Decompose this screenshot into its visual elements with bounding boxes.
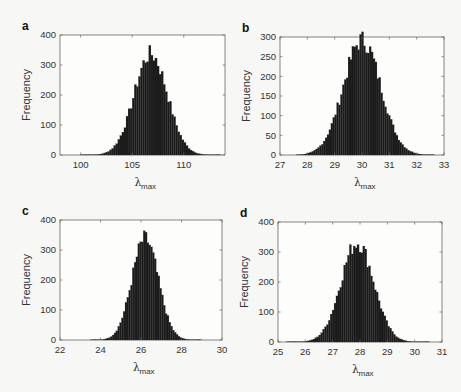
panel-b: 05010015020025030027282930313233Frequenc… (240, 21, 449, 191)
x-axis-label-subscript: max (359, 369, 374, 378)
x-tick-label: 28 (355, 346, 366, 357)
y-tick-label: 150 (260, 90, 276, 101)
y-tick-label: 300 (258, 246, 274, 257)
panel-c: 01002003004002224262830Frequencyλmaxc (20, 204, 227, 376)
x-axis-label-subscript: max (361, 182, 376, 191)
panel-label: b (242, 21, 249, 35)
panel-label: c (22, 204, 29, 218)
x-tick-label: 25 (273, 346, 284, 357)
panel-a: 0100200300400100105110Frequencyλmaxa (20, 19, 225, 191)
panel-d: 010020030040025262728293031Frequencyλmax… (238, 206, 447, 378)
x-tick-label: 110 (176, 159, 191, 170)
x-tick-label: 28 (302, 159, 313, 170)
y-tick-label: 250 (260, 51, 276, 62)
panel-label: a (22, 19, 29, 33)
x-tick-label: 29 (329, 159, 340, 170)
x-tick-label: 30 (409, 346, 420, 357)
y-tick-label: 200 (260, 71, 276, 82)
y-tick-label: 0 (51, 149, 56, 160)
y-tick-label: 400 (40, 29, 56, 40)
panel-label: d (240, 206, 247, 220)
y-tick-label: 100 (260, 110, 276, 121)
y-tick-label: 100 (40, 119, 56, 130)
x-tick-label: 24 (95, 344, 106, 355)
y-axis-label: Frequency (20, 254, 32, 306)
y-tick-label: 200 (40, 274, 56, 285)
y-tick-label: 100 (40, 304, 56, 315)
y-tick-label: 300 (260, 31, 276, 42)
y-axis-label: Frequency (20, 69, 32, 121)
x-tick-label: 31 (384, 159, 395, 170)
x-tick-label: 30 (357, 159, 368, 170)
y-axis-label: Frequency (238, 256, 250, 308)
x-tick-label: 32 (411, 159, 422, 170)
x-tick-label: 31 (437, 346, 448, 357)
x-tick-label: 29 (382, 346, 393, 357)
y-tick-label: 400 (40, 214, 56, 225)
figure: 0100200300400100105110Frequencyλmaxa0501… (0, 0, 461, 392)
x-tick-label: 22 (55, 344, 66, 355)
x-axis-label-subscript: max (141, 182, 156, 191)
x-tick-label: 26 (300, 346, 311, 357)
x-tick-label: 30 (217, 344, 228, 355)
x-tick-label: 33 (439, 159, 450, 170)
y-tick-label: 300 (40, 59, 56, 70)
x-tick-label: 26 (136, 344, 147, 355)
y-tick-label: 50 (265, 130, 276, 141)
x-tick-label: 100 (73, 159, 89, 170)
y-tick-label: 400 (258, 216, 274, 227)
x-axis-label-subscript: max (140, 367, 155, 376)
y-tick-label: 200 (258, 276, 274, 287)
y-tick-label: 300 (40, 244, 56, 255)
x-tick-label: 28 (176, 344, 187, 355)
y-axis-label: Frequency (240, 70, 252, 122)
x-tick-label: 27 (327, 346, 338, 357)
y-tick-label: 200 (40, 89, 56, 100)
y-tick-label: 100 (258, 306, 274, 317)
x-tick-label: 105 (124, 159, 140, 170)
x-tick-label: 27 (275, 159, 286, 170)
